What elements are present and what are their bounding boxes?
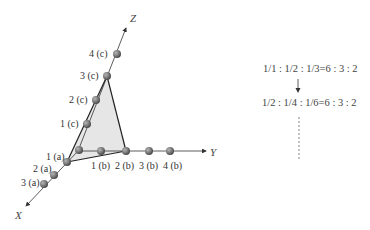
x-point-label: 3 (a) bbox=[21, 177, 40, 189]
y-point-label: 2 (b) bbox=[115, 160, 134, 172]
z-point-label: 3 (c) bbox=[80, 70, 99, 82]
x-point-label: 2 (a) bbox=[33, 163, 52, 175]
x-point-label: 1 (a) bbox=[46, 151, 65, 163]
z-point-label: 1 (c) bbox=[60, 118, 79, 130]
ratio-line-2: 1/2 : 1/4 : 1/6=6 : 3 : 2 bbox=[262, 97, 357, 108]
miller-index-diagram: Z Y X 4 (c) 3 (c) 2 (c) 1 (c) 1 (a) 2 (a… bbox=[0, 0, 370, 230]
y-point-label: 4 (b) bbox=[163, 160, 182, 172]
y-point-label: 3 (b) bbox=[139, 160, 158, 172]
vertical-ellipsis-icon bbox=[298, 117, 299, 158]
z-point-label: 2 (c) bbox=[69, 94, 88, 106]
x-axis-label: X bbox=[14, 209, 23, 221]
y-axis-label: Y bbox=[210, 146, 218, 158]
down-arrow-icon bbox=[296, 79, 301, 93]
z-point-label: 4 (c) bbox=[89, 48, 108, 60]
z-axis-label: Z bbox=[130, 12, 137, 24]
ratio-line-1: 1/1 : 1/2 : 1/3=6 : 3 : 2 bbox=[263, 63, 358, 74]
y-point-label: 1 (b) bbox=[91, 160, 110, 172]
